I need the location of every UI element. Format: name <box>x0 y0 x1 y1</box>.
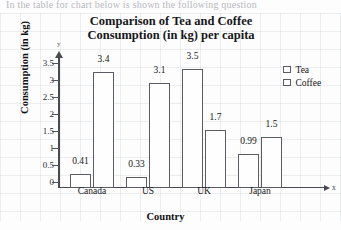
x-axis-arrow-icon <box>324 185 330 191</box>
category-label-uk: UK <box>197 186 211 196</box>
bar-coffee-uk <box>205 130 226 188</box>
cropped-text-fragment: In the table for chart below is shown th… <box>6 0 336 10</box>
bar-coffee-japan <box>261 137 282 188</box>
y-axis-tick <box>52 97 59 98</box>
plot-area: y x 0.413.4Canada0.333.1US3.51.7UK0.991.… <box>58 52 273 188</box>
legend-swatch-icon <box>283 79 291 87</box>
y-axis-arrow-icon <box>55 51 63 58</box>
bar-coffee-us <box>149 83 170 188</box>
y-axis-tick <box>52 80 59 81</box>
x-axis-title: Country <box>58 211 273 222</box>
legend-label: Coffee <box>296 78 322 88</box>
bar-value-label: 3.4 <box>98 54 110 64</box>
chart-title: Comparison of Tea and Coffee Consumption… <box>60 14 282 42</box>
bar-value-label: 0.41 <box>72 156 89 166</box>
bar-value-label: 3.5 <box>187 51 199 61</box>
y-axis-tick <box>52 182 59 183</box>
legend-label: Tea <box>296 65 310 75</box>
category-label-japan: Japan <box>249 186 271 196</box>
y-axis-tick <box>52 63 59 64</box>
chart-title-line-2: Consumption (in kg) per capita <box>60 28 282 42</box>
bar-value-label: 3.1 <box>154 65 166 75</box>
chart-legend: TeaCoffee <box>283 63 321 89</box>
y-axis-line: y <box>58 58 60 188</box>
legend-swatch-icon <box>283 66 291 74</box>
bar-tea-japan <box>238 154 259 188</box>
y-axis-tick <box>52 131 59 132</box>
x-axis-letter: x <box>332 183 336 192</box>
bar-tea-uk <box>182 69 203 188</box>
category-label-canada: Canada <box>78 186 107 196</box>
y-axis-tick <box>52 148 59 149</box>
legend-item-coffee[interactable]: Coffee <box>283 76 321 89</box>
category-label-us: US <box>142 186 154 196</box>
bar-coffee-canada <box>93 72 114 188</box>
y-axis-letter: y <box>57 40 61 48</box>
y-axis-tick <box>52 114 59 115</box>
y-axis-tick <box>52 165 59 166</box>
chart-title-line-1: Comparison of Tea and Coffee <box>60 14 282 28</box>
bar-value-label: 0.99 <box>240 136 257 146</box>
bar-value-label: 0.33 <box>128 159 145 169</box>
legend-item-tea[interactable]: Tea <box>283 63 321 76</box>
bar-value-label: 1.5 <box>266 119 278 129</box>
y-axis-tick-labels: 00.511.522.533.5 <box>18 52 54 182</box>
bar-value-label: 1.7 <box>210 112 222 122</box>
